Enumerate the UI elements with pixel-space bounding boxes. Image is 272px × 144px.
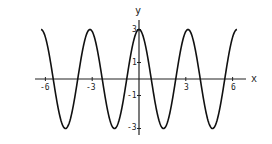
- x-tick-label: -3: [86, 83, 96, 92]
- y-tick-label: -1: [127, 91, 137, 100]
- y-tick-label: -3: [127, 123, 137, 132]
- x-axis-label: x: [251, 73, 257, 84]
- y-tick-label: 1: [132, 58, 137, 67]
- x-tick-label: 3: [184, 83, 189, 92]
- plot-area: x y -6 -3 3 6 3 1 -1 -3: [0, 0, 272, 144]
- x-tick-label: 6: [231, 83, 236, 92]
- y-axis-label: y: [135, 5, 141, 16]
- x-tick-label: -6: [40, 83, 50, 92]
- y-tick-label: 3: [132, 25, 137, 34]
